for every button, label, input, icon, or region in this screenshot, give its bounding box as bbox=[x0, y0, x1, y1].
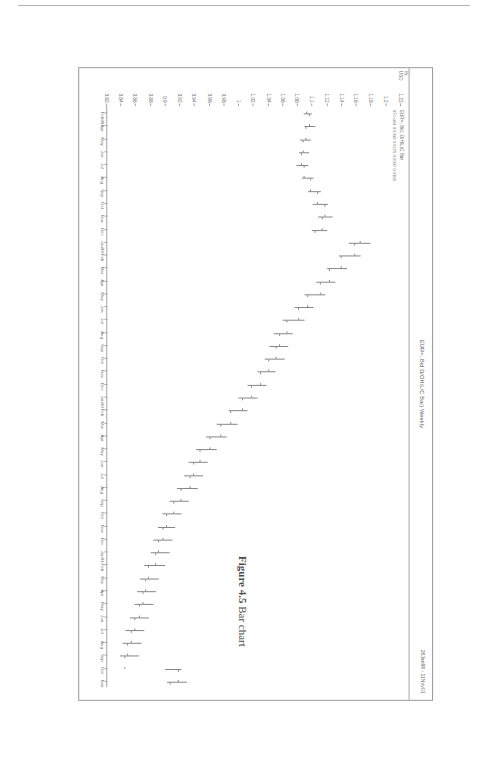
ohlc-bar bbox=[106, 229, 407, 233]
ohlc-close-tick bbox=[170, 683, 171, 685]
chart-title: EUR=, Bid D/OH/L/C Bar) Weekly bbox=[419, 68, 425, 700]
x-axis-tick-mark bbox=[105, 113, 108, 114]
ohlc-open-tick bbox=[303, 150, 304, 152]
ohlc-bar bbox=[106, 448, 407, 452]
ohlc-close-tick bbox=[305, 127, 306, 129]
x-axis-tick-mark bbox=[105, 216, 108, 217]
ohlc-bar bbox=[106, 681, 407, 685]
ohlc-bar bbox=[106, 513, 407, 517]
ohlc-bar bbox=[106, 397, 407, 401]
ohlc-open-tick bbox=[276, 357, 277, 359]
ohlc-high-low bbox=[300, 139, 310, 140]
ohlc-high-low bbox=[305, 126, 315, 127]
ohlc-open-tick bbox=[173, 512, 174, 514]
y-axis-unit-top: Pr bbox=[403, 71, 408, 81]
ohlc-bar bbox=[106, 616, 407, 620]
ohlc-high-low bbox=[137, 591, 156, 592]
x-axis-tick-mark bbox=[105, 616, 108, 617]
ohlc-high-low bbox=[150, 552, 169, 553]
ohlc-high-low bbox=[274, 333, 293, 334]
ohlc-close-tick bbox=[166, 515, 167, 517]
ohlc-high-low bbox=[189, 462, 208, 463]
ohlc-bar bbox=[106, 629, 407, 633]
ohlc-close-tick bbox=[322, 218, 323, 220]
ohlc-open-tick bbox=[317, 202, 318, 204]
ohlc-open-tick bbox=[158, 551, 159, 553]
x-axis-tick-mark bbox=[105, 422, 108, 423]
x-axis-tick-mark bbox=[105, 487, 108, 488]
ohlc-open-tick bbox=[322, 228, 323, 230]
x-axis-tick-mark bbox=[105, 642, 108, 643]
ohlc-close-tick bbox=[269, 360, 270, 362]
ohlc-open-tick bbox=[180, 499, 181, 501]
y-axis-tick-label: 0.84 bbox=[118, 93, 123, 102]
y-axis-tick-label: 1.18 bbox=[368, 93, 373, 102]
x-axis-tick-mark bbox=[105, 500, 108, 501]
ohlc-open-tick bbox=[309, 125, 310, 127]
ohlc-bar bbox=[106, 203, 407, 207]
x-axis-tick-mark bbox=[105, 681, 108, 682]
ohlc-bar bbox=[106, 358, 407, 362]
chart-legend: EUR=, Bid, O/H/L/C Bar 07Oct01 0.9030 0.… bbox=[391, 110, 404, 181]
ohlc-high-low bbox=[303, 114, 312, 115]
ohlc-bar bbox=[106, 242, 407, 246]
ohlc-close-tick bbox=[158, 540, 159, 542]
ohlc-bar bbox=[106, 435, 407, 439]
ohlc-close-tick bbox=[210, 437, 211, 439]
ohlc-bar bbox=[106, 655, 407, 659]
y-axis-unit-label: Pr USD bbox=[398, 71, 409, 81]
ohlc-close-tick bbox=[242, 398, 243, 400]
x-axis-tick-mark bbox=[105, 526, 108, 527]
figure-caption: Figure 4.5 Bar chart bbox=[237, 556, 249, 768]
ohlc-close-tick bbox=[303, 140, 304, 142]
ohlc-open-tick bbox=[130, 641, 131, 643]
ohlc-open-tick bbox=[251, 396, 252, 398]
x-axis-tick-mark bbox=[105, 358, 108, 359]
ohlc-bar bbox=[106, 590, 407, 594]
ohlc-bar bbox=[106, 539, 407, 543]
ohlc-close-tick bbox=[127, 644, 128, 646]
ohlc-close-tick bbox=[155, 553, 156, 555]
y-axis-tick-label: 0.86 bbox=[133, 93, 138, 102]
figure-caption-text: Bar chart bbox=[237, 606, 249, 647]
ohlc-bar bbox=[106, 552, 407, 556]
ohlc-open-tick bbox=[210, 447, 211, 449]
ohlc-open-tick bbox=[242, 409, 243, 411]
x-axis-tick-mark bbox=[105, 552, 108, 553]
ohlc-open-tick bbox=[166, 525, 167, 527]
y-axis-tick-label: 1.1 bbox=[309, 96, 314, 103]
ohlc-open-tick bbox=[220, 434, 221, 436]
ohlc-close-tick bbox=[139, 605, 140, 607]
ohlc-close-tick bbox=[200, 450, 201, 452]
ohlc-bar bbox=[106, 422, 407, 426]
ohlc-open-tick bbox=[200, 460, 201, 462]
ohlc-open-tick bbox=[360, 241, 361, 243]
ohlc-open-tick bbox=[304, 176, 305, 178]
ohlc-close-tick bbox=[310, 179, 311, 181]
x-axis-tick-mark bbox=[105, 177, 108, 178]
x-axis-tick-mark bbox=[105, 474, 108, 475]
ohlc-open-tick bbox=[306, 112, 307, 114]
ohlc-close-tick bbox=[309, 114, 310, 116]
x-axis-tick-mark bbox=[105, 268, 108, 269]
ohlc-open-tick bbox=[286, 331, 287, 333]
x-axis-tick-mark bbox=[105, 655, 108, 656]
ohlc-close-tick bbox=[279, 334, 280, 336]
x-axis-tick-label: Feb98 bbox=[100, 112, 105, 124]
ohlc-close-tick bbox=[142, 592, 143, 594]
ohlc-open-tick bbox=[135, 628, 136, 630]
x-axis-tick-mark bbox=[105, 577, 108, 578]
ohlc-bar bbox=[106, 500, 407, 504]
plot-area: EUR=, Bid, O/H/L/C Bar 07Oct01 0.9030 0.… bbox=[106, 106, 407, 687]
y-axis-tick-label: 1 bbox=[236, 100, 241, 103]
ohlc-open-tick bbox=[163, 538, 164, 540]
y-axis-tick-label: 1.12 bbox=[324, 93, 329, 102]
y-axis-tick-label: 0.98 bbox=[221, 93, 226, 102]
ohlc-open-tick bbox=[341, 267, 342, 269]
ohlc-bar bbox=[106, 345, 407, 349]
ohlc-open-tick bbox=[305, 138, 306, 140]
x-axis-tick-mark bbox=[105, 410, 108, 411]
ohlc-high-low bbox=[270, 346, 289, 347]
ohlc-bar bbox=[106, 268, 407, 272]
x-axis-tick-mark bbox=[105, 255, 108, 256]
